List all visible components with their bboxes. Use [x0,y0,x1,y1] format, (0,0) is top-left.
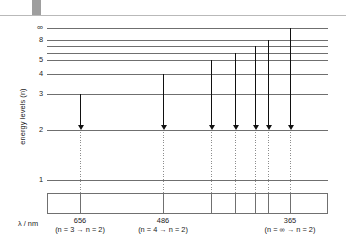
drop-line [290,132,291,193]
wavelength-transition: (n = ∞ → n = 2) [230,225,346,234]
transition-arrow-head [209,125,215,130]
transition-arrow-head [161,125,167,130]
wavelength-value: 365 [230,216,346,225]
energy-level-line [47,40,328,41]
transition-arrow-head [253,125,259,130]
spectral-line [235,194,236,213]
energy-level-label: 2 [31,126,43,134]
energy-level-line [47,94,328,95]
drop-line [80,132,81,193]
wavelength-transition: (n = 4 → n = 2) [103,225,223,234]
transition-arrow [163,74,164,126]
spectral-line [163,194,164,213]
energy-level-label: 3 [31,90,43,98]
drop-line [268,132,269,193]
energy-level-line [47,74,328,75]
window-tab-indicator[interactable] [32,0,41,16]
energy-level-line [47,180,328,181]
spectral-line [80,194,81,213]
spectral-line [290,194,291,213]
transition-arrow-head [233,125,239,130]
drop-line [255,132,256,193]
energy-level-diagram: energy levels (n) ∞854321 λ / nm 656(n =… [0,16,346,239]
drop-line [211,132,212,193]
y-axis-label: energy levels (n) [18,62,27,172]
drop-line [163,132,164,193]
energy-level-line [47,60,328,61]
transition-arrow [235,53,236,126]
transition-arrow [290,28,291,126]
drop-line [235,132,236,193]
energy-level-line [47,130,328,131]
spectral-line [255,194,256,213]
transition-arrow [255,46,256,126]
energy-level-label: 8 [31,36,43,44]
transition-arrow-head [78,125,84,130]
screenshot-root: energy levels (n) ∞854321 λ / nm 656(n =… [0,0,346,239]
wavelength-value: 486 [103,216,223,225]
transition-arrow-head [266,125,272,130]
transition-arrow [268,40,269,126]
energy-level-label: ∞ [31,24,43,31]
energy-level-line [47,53,328,54]
wavelength-label: 365(n = ∞ → n = 2) [230,216,346,234]
energy-level-label: 4 [31,70,43,78]
transition-arrow-head [288,125,294,130]
transition-arrow [211,60,212,126]
energy-level-label: 5 [31,56,43,64]
spectrum-box [47,193,328,214]
spectral-line [268,194,269,213]
wavelength-label: 486(n = 4 → n = 2) [103,216,223,234]
spectral-line [211,194,212,213]
energy-level-label: 1 [31,176,43,184]
energy-level-line [47,46,328,47]
energy-level-line [47,28,328,29]
transition-arrow [80,94,81,126]
